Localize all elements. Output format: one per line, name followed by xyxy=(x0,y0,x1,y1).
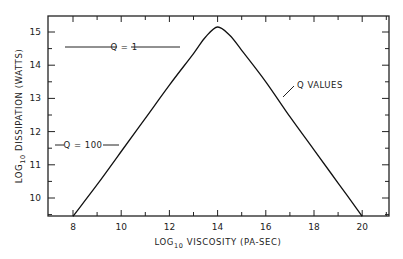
y-tick-label: 10 xyxy=(30,193,42,203)
annotation-q100-label: Q = 100 xyxy=(64,140,103,150)
x-tick-label: 14 xyxy=(212,222,224,232)
y-axis-tick-labels: 101112131415 xyxy=(30,27,42,203)
y-tick-label: 13 xyxy=(30,93,41,103)
annotation-q1: Q = 1 xyxy=(65,42,180,52)
x-tick-label: 12 xyxy=(164,222,175,232)
x-axis-tick-labels: 8101214161820 xyxy=(70,222,368,232)
x-tick-label: 16 xyxy=(260,222,272,232)
x-tick-label: 20 xyxy=(356,222,368,232)
y-tick-label: 15 xyxy=(30,27,41,37)
x-axis-label: LOG10 VISCOSITY (PA-SEC) xyxy=(154,237,281,250)
y-axis-label: LOG10 DISSIPATION (WATTS) xyxy=(14,49,27,184)
q-values-curve xyxy=(73,27,362,216)
annotation-q-values-label: Q VALUES xyxy=(297,80,343,90)
y-tick-label: 12 xyxy=(30,127,41,137)
annotation-q1-label: Q = 1 xyxy=(110,42,137,52)
annotation-q-values: Q VALUES xyxy=(283,80,343,97)
y-tick-label: 14 xyxy=(30,60,42,70)
x-tick-label: 18 xyxy=(308,222,320,232)
y-tick-label: 11 xyxy=(30,160,41,170)
annotation-q100: Q = 100 xyxy=(55,140,119,150)
x-tick-label: 8 xyxy=(70,222,76,232)
chart: 8101214161820 101112131415 Q = 1 Q = 100… xyxy=(0,0,403,259)
plot-frame xyxy=(48,16,389,216)
x-tick-label: 10 xyxy=(115,222,127,232)
y-axis-ticks xyxy=(48,32,389,215)
